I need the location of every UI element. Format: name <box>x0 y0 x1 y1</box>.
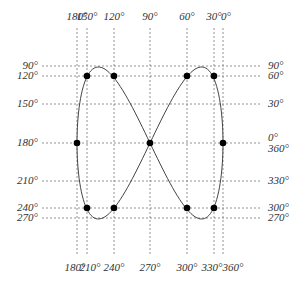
bottom-axis-label: 300° <box>177 261 198 273</box>
lissajous-diagram <box>0 0 297 288</box>
bottom-axis-label: 210° <box>80 261 101 273</box>
bottom-axis-label: 270° <box>140 261 161 273</box>
left-axis-label: 270° <box>4 211 38 223</box>
left-axis-label: 180° <box>4 136 38 148</box>
bottom-axis-label: 240° <box>104 261 125 273</box>
left-axis-label: 210° <box>4 174 38 186</box>
right-axis-label: 30° <box>268 97 283 109</box>
data-point-dot <box>184 73 191 80</box>
data-point-dot <box>184 205 191 212</box>
bottom-axis-label: 360° <box>223 261 244 273</box>
right-axis-label: 330° <box>268 174 289 186</box>
data-point-dot <box>111 205 118 212</box>
data-point-dot <box>220 140 227 147</box>
top-axis-label: 30° <box>206 10 221 22</box>
left-axis-label: 120° <box>4 69 38 81</box>
top-axis-label: 120° <box>104 10 125 22</box>
left-axis-label: 150° <box>4 97 38 109</box>
top-axis-label: 0° <box>221 10 231 22</box>
data-point-dot <box>111 73 118 80</box>
top-axis-label: 60° <box>179 10 194 22</box>
right-axis-label: 60° <box>268 69 283 81</box>
data-point-dot <box>84 73 91 80</box>
right-axis-label: 270° <box>268 211 289 223</box>
data-point-dot <box>211 205 218 212</box>
bottom-axis-label: 330° <box>202 261 223 273</box>
right-axis-label: 360° <box>268 142 289 154</box>
data-point-dot <box>84 205 91 212</box>
top-axis-label: 150° <box>77 10 98 22</box>
data-point-dot <box>147 140 154 147</box>
top-axis-label: 90° <box>142 10 157 22</box>
data-point-dot <box>211 73 218 80</box>
data-point-dot <box>74 140 81 147</box>
